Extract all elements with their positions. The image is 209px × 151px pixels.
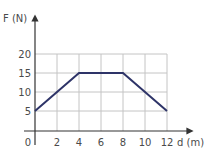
- x-tick-8: 8: [120, 137, 126, 148]
- y-tick-20: 20: [18, 49, 31, 60]
- y-tick-15: 15: [18, 68, 31, 79]
- grid: [35, 54, 167, 131]
- y-tick-5: 5: [25, 106, 31, 117]
- x-tick-4: 4: [76, 137, 82, 148]
- x-tick-2: 2: [54, 137, 60, 148]
- x-tick-6: 6: [98, 137, 104, 148]
- y-tick-10: 10: [18, 87, 31, 98]
- y-axis-label: F (N): [3, 13, 27, 24]
- force-distance-chart: F (N) d (m) 20 15 10 5 0 2 4 6 8 10 12: [0, 0, 209, 151]
- x-tick-0: 0: [25, 137, 31, 148]
- x-tick-12: 12: [161, 137, 174, 148]
- x-axis-label: d (m): [177, 137, 204, 148]
- x-tick-10: 10: [139, 137, 152, 148]
